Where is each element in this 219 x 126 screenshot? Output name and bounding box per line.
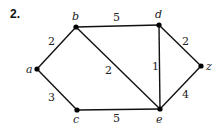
edge-a-c bbox=[37, 69, 77, 110]
edge-weight-c-e: 5 bbox=[113, 112, 120, 125]
node-label-b: b bbox=[72, 10, 79, 23]
node-label-d: d bbox=[155, 8, 162, 21]
edge-b-d bbox=[76, 25, 159, 27]
edge-weight-b-d: 5 bbox=[113, 11, 120, 24]
edge-weight-a-c: 3 bbox=[48, 91, 55, 104]
edge-b-e bbox=[76, 27, 160, 109]
edge-weight-b-e: 2 bbox=[105, 64, 112, 77]
edge-weight-a-b: 2 bbox=[48, 35, 55, 48]
edge-weight-d-e: 1 bbox=[152, 60, 159, 73]
node-label-z: z bbox=[205, 60, 212, 73]
problem-number: 2. bbox=[10, 7, 20, 21]
node-z bbox=[198, 63, 203, 68]
node-b bbox=[73, 24, 78, 29]
edge-d-z bbox=[159, 25, 201, 66]
node-e bbox=[157, 106, 162, 111]
weighted-graph: 2. 23525124 abcdez bbox=[0, 0, 219, 126]
edge-a-b bbox=[37, 27, 76, 69]
edge-c-e bbox=[77, 109, 160, 110]
node-label-a: a bbox=[26, 63, 33, 76]
edges: 23525124 bbox=[37, 11, 201, 125]
edge-e-z bbox=[160, 66, 201, 109]
edge-d-e bbox=[159, 25, 160, 109]
edge-weight-d-z: 2 bbox=[182, 35, 189, 48]
node-a bbox=[34, 66, 39, 71]
node-label-e: e bbox=[156, 113, 163, 126]
node-d bbox=[156, 22, 161, 27]
edge-weight-e-z: 4 bbox=[182, 88, 189, 101]
node-label-c: c bbox=[73, 113, 79, 126]
node-c bbox=[74, 107, 79, 112]
